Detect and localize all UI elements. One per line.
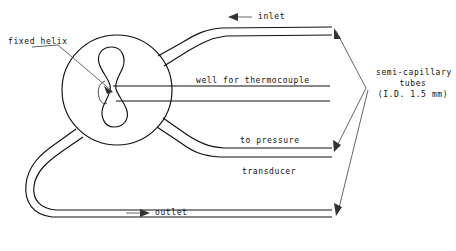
fixed-helix-shape	[99, 47, 128, 127]
label-semi-capillary-line1: semi-capillary	[376, 68, 450, 78]
figure-diagram: fixed helix inlet well for thermocouple …	[0, 0, 456, 251]
label-fixed-helix: fixed helix	[8, 37, 68, 47]
label-well-for-thermocouple: well for thermocouple	[196, 76, 310, 86]
capillary-leader-inlet	[336, 31, 366, 88]
capillary-arrowhead-inlet	[334, 28, 341, 39]
label-outlet: outlet	[155, 208, 188, 218]
inlet-tube-wall-outer	[158, 27, 332, 56]
inlet-tube-wall-inner	[164, 35, 332, 66]
label-to-pressure: to pressure	[240, 136, 300, 146]
capillary-arrowhead-pressure	[333, 140, 341, 152]
label-inlet: inlet	[258, 12, 285, 22]
label-transducer: transducer	[242, 167, 296, 177]
diagram-canvas	[0, 0, 456, 251]
label-semi-capillary-line3: (I.D. 1.5 mm)	[374, 90, 452, 100]
capillary-leader-outlet	[339, 90, 368, 208]
vessel-body-circle	[62, 35, 172, 145]
capillary-arrowhead-outlet	[334, 203, 342, 216]
label-semi-capillary-line2: tubes	[376, 79, 450, 89]
fixed-helix-arrowhead	[104, 86, 113, 94]
inlet-flow-arrowhead	[228, 13, 238, 21]
